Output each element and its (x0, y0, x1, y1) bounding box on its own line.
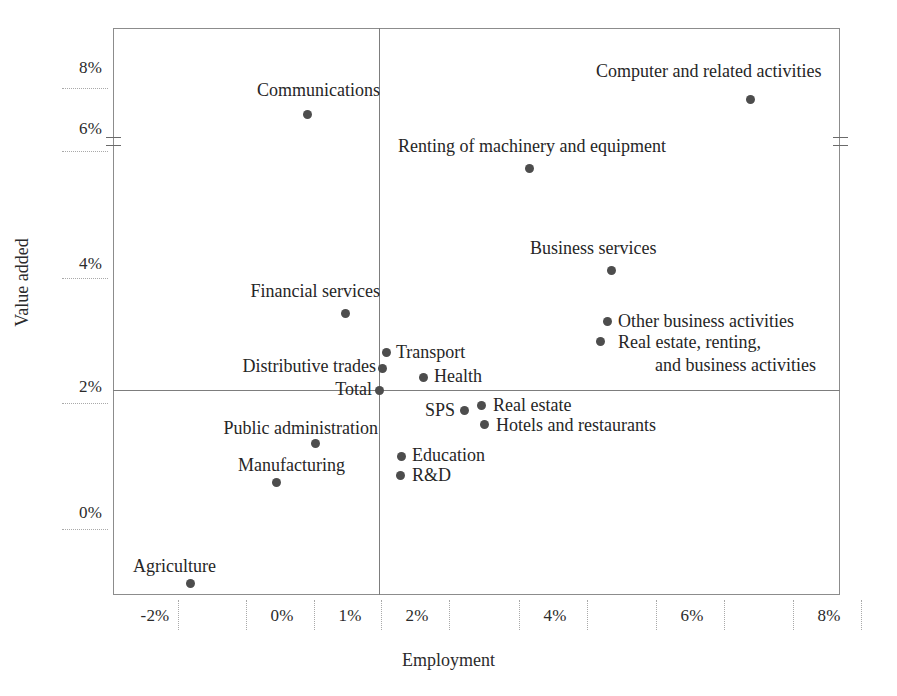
data-label-education: Education (412, 445, 485, 466)
y-tick-label-2: 2% (46, 377, 102, 397)
y-tick-mark-4 (62, 278, 108, 279)
y-axis-break-right-upper (833, 137, 848, 138)
y-tick-label-4: 4% (46, 254, 102, 274)
data-point-real-estate[interactable] (477, 401, 486, 410)
data-label-agriculture: Agriculture (133, 556, 216, 577)
x-axis-title: Employment (0, 650, 897, 671)
x-tick-label-6: 6% (662, 606, 722, 626)
data-label-real-estate: Real estate (493, 395, 571, 416)
data-label-renting-machinery: Renting of machinery and equipment (398, 136, 666, 157)
data-point-manufacturing[interactable] (272, 478, 281, 487)
data-point-transport[interactable] (382, 348, 391, 357)
data-point-public-admin[interactable] (311, 439, 320, 448)
data-label-distributive-trades: Distributive trades (155, 356, 376, 377)
data-label-total: Total (230, 379, 372, 400)
data-label-manufacturing: Manufacturing (140, 455, 345, 476)
x-tick-label-neg2: -2% (125, 606, 185, 626)
data-label-hotels: Hotels and restaurants (496, 415, 656, 436)
y-axis-title: Value added (12, 183, 33, 383)
y-tick-mark-6 (62, 151, 108, 152)
y-tick-label-6: 6% (46, 119, 102, 139)
y-tick-mark-0 (62, 529, 108, 530)
x-tick-mark-mid1 (246, 600, 247, 630)
y-tick-mark-2 (62, 403, 108, 404)
data-point-other-business[interactable] (603, 317, 612, 326)
data-point-rnd[interactable] (396, 471, 405, 480)
x-tick-mark-2 (449, 600, 450, 630)
data-point-sps[interactable] (460, 406, 469, 415)
x-tick-label-8: 8% (799, 606, 859, 626)
data-label-rnd: R&D (412, 465, 451, 486)
y-axis-break-left-upper (106, 137, 121, 138)
x-tick-label-2: 2% (387, 606, 447, 626)
data-point-agriculture[interactable] (186, 579, 195, 588)
x-tick-mark-4 (587, 600, 588, 630)
y-axis-break-right-lower (833, 145, 848, 146)
x-tick-label-1: 1% (320, 606, 380, 626)
y-tick-mark-8 (62, 88, 108, 89)
data-point-distributive-trades[interactable] (378, 364, 387, 373)
x-tick-label-0: 0% (252, 606, 312, 626)
x-tick-mark-mid4 (793, 600, 794, 630)
data-label-transport: Transport (396, 342, 465, 363)
data-point-communications[interactable] (303, 110, 312, 119)
data-point-total[interactable] (375, 386, 384, 395)
total-reference-line-vertical (379, 28, 380, 595)
data-point-renting-machinery[interactable] (525, 164, 534, 173)
x-tick-mark-neg2 (178, 600, 179, 630)
y-tick-label-0: 0% (46, 503, 102, 523)
x-tick-mark-6 (724, 600, 725, 630)
data-point-health[interactable] (419, 373, 428, 382)
data-label-public-admin: Public administration (120, 418, 378, 439)
data-point-financial-services[interactable] (341, 309, 350, 318)
data-label-real-estate-renting-line1: Real estate, renting, (618, 332, 761, 353)
x-tick-mark-mid3 (656, 600, 657, 630)
x-tick-mark-mid2 (519, 600, 520, 630)
x-tick-mark-1 (381, 600, 382, 630)
data-label-real-estate-renting-line2: and business activities (655, 355, 816, 376)
data-label-computer: Computer and related activities (596, 61, 821, 82)
data-point-education[interactable] (397, 452, 406, 461)
total-reference-line-horizontal (113, 390, 840, 391)
x-tick-mark-8 (861, 600, 862, 630)
x-tick-label-4: 4% (525, 606, 585, 626)
data-point-computer[interactable] (746, 95, 755, 104)
y-tick-label-8: 8% (46, 58, 102, 78)
y-axis-break-left-lower (106, 145, 121, 146)
data-label-communications: Communications (148, 80, 380, 101)
chart-canvas: 8% 6% 4% 2% 0% -2% 0% 1% 2% 4% 6% 8% Val… (0, 0, 897, 696)
data-label-other-business: Other business activities (618, 311, 794, 332)
data-label-business-services: Business services (530, 238, 656, 259)
data-point-business-services[interactable] (607, 266, 616, 275)
data-label-health: Health (434, 366, 482, 387)
data-point-real-estate-renting[interactable] (596, 337, 605, 346)
data-label-financial-services: Financial services (150, 281, 380, 302)
data-point-hotels[interactable] (480, 420, 489, 429)
x-tick-mark-0 (314, 600, 315, 630)
